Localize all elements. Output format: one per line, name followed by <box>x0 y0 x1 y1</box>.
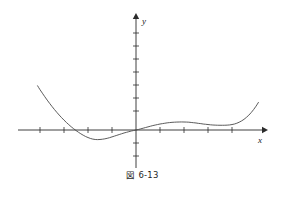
figure-container: y x 図 6-13 <box>0 0 285 197</box>
y-axis-arrow-icon <box>133 13 139 19</box>
function-curve <box>38 86 259 140</box>
plot-area: y x <box>0 0 285 175</box>
x-axis-label: x <box>257 135 262 145</box>
x-axis-arrow-icon <box>262 127 268 133</box>
y-axis-label: y <box>141 16 146 26</box>
figure-caption: 図 6-13 <box>0 168 285 180</box>
